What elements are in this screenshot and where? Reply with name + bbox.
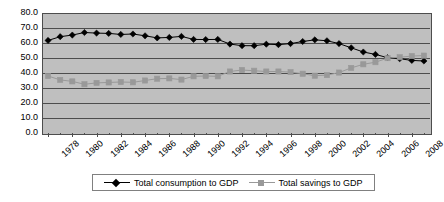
x-axis-tick-label: 2004 xyxy=(375,139,396,159)
x-axis-tick-label: 1998 xyxy=(303,139,324,159)
x-axis-tick-label: 1992 xyxy=(230,139,251,159)
x-axis: 1978198019821984198619881990199219941996… xyxy=(0,0,444,202)
x-axis-tick-label: 1980 xyxy=(84,139,105,159)
chart-container: 0.010.020.030.040.050.060.070.080.0 1978… xyxy=(0,0,444,202)
legend-marker-diamond-icon xyxy=(104,178,130,188)
x-axis-tick-label: 2002 xyxy=(351,139,372,159)
x-axis-tick-label: 2000 xyxy=(327,139,348,159)
legend-label-consumption: Total consumption to GDP xyxy=(134,178,239,188)
x-axis-tick-label: 1990 xyxy=(206,139,227,159)
x-axis-tick-label: 1978 xyxy=(60,139,81,159)
x-axis-tick-label: 1984 xyxy=(133,139,154,159)
legend-item-consumption: Total consumption to GDP xyxy=(104,178,239,188)
x-axis-tick-label: 1996 xyxy=(278,139,299,159)
x-axis-tick-label: 1986 xyxy=(157,139,178,159)
x-axis-tick-label: 2006 xyxy=(400,139,421,159)
x-axis-tick-label: 1988 xyxy=(181,139,202,159)
x-axis-tick-label: 1994 xyxy=(254,139,275,159)
legend-marker-square-icon xyxy=(249,178,275,188)
legend-item-savings: Total savings to GDP xyxy=(249,178,363,188)
chart-legend: Total consumption to GDP Total savings t… xyxy=(92,174,375,191)
legend-label-savings: Total savings to GDP xyxy=(279,178,363,188)
x-axis-tick-label: 2008 xyxy=(424,139,444,159)
x-axis-tick-label: 1982 xyxy=(109,139,130,159)
